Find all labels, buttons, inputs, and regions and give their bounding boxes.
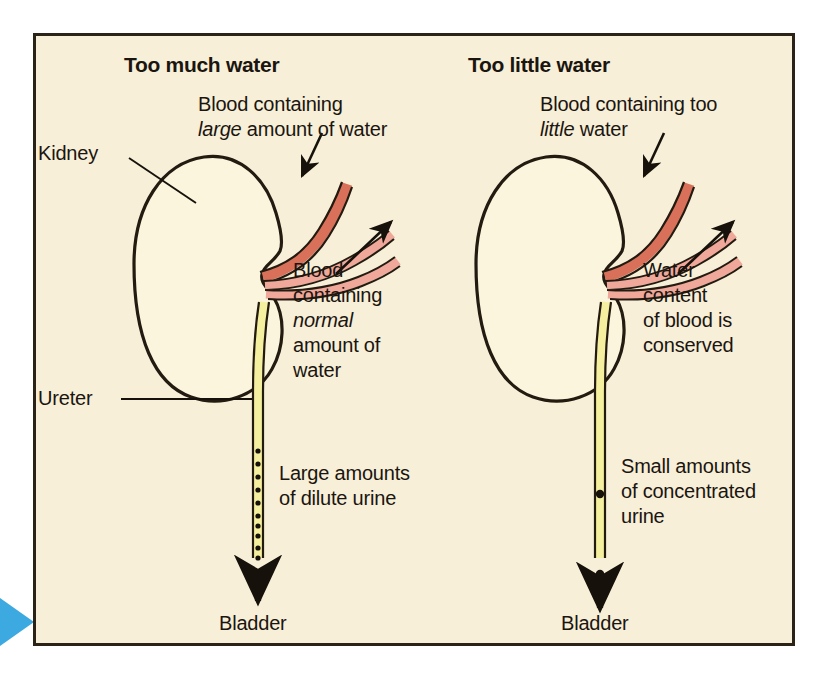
- figure-panel: Too much water Blood containing large am…: [33, 33, 795, 646]
- label-blood-normal-line5: water: [293, 358, 341, 383]
- label-blood-normal-line3: normal: [293, 308, 353, 333]
- emphasis-normal: normal: [293, 309, 353, 331]
- label-bladder-right: Bladder: [561, 611, 629, 636]
- label-blood-normal-line2: containing: [293, 283, 382, 308]
- label-water-conserved-line1: Water: [643, 258, 695, 283]
- label-large-amount-rest: amount of water: [241, 118, 387, 140]
- label-concentrated-urine-line1: Small amounts: [621, 454, 751, 479]
- label-dilute-urine-line2: of dilute urine: [279, 486, 396, 511]
- label-ureter: Ureter: [38, 386, 92, 411]
- label-concentrated-urine-line2: of concentrated: [621, 479, 756, 504]
- label-bladder-left: Bladder: [219, 611, 287, 636]
- label-water-conserved-line2: content: [643, 283, 707, 308]
- figure-root: Too much water Blood containing large am…: [0, 0, 829, 673]
- label-concentrated-urine-line3: urine: [621, 504, 664, 529]
- heading-too-much-water: Too much water: [124, 53, 279, 77]
- label-dilute-urine-line1: Large amounts: [279, 461, 410, 486]
- label-blood-normal-line4: amount of: [293, 333, 380, 358]
- blue-page-marker-icon: [0, 598, 34, 646]
- label-water-conserved-line3: of blood is: [643, 308, 732, 333]
- label-kidney: Kidney: [38, 141, 98, 166]
- label-blood-containing-large-line1: Blood containing: [198, 92, 343, 117]
- figure-panel-inner: Too much water Blood containing large am…: [36, 36, 792, 643]
- label-little-water-rest: water: [574, 118, 627, 140]
- emphasis-large: large: [198, 118, 241, 140]
- right-panel-graphic: [476, 133, 742, 608]
- label-water-conserved-line4: conserved: [643, 333, 733, 358]
- arrow-blood-in-right: [644, 133, 664, 176]
- label-blood-containing-too-little-line1: Blood containing too: [540, 92, 717, 117]
- label-blood-normal-line1: Blood: [293, 258, 343, 283]
- emphasis-little: little: [540, 118, 574, 140]
- heading-too-little-water: Too little water: [468, 53, 610, 77]
- label-blood-containing-large-line2: large amount of water: [198, 117, 387, 142]
- label-blood-containing-too-little-line2: little water: [540, 117, 628, 142]
- left-panel-graphic: [121, 133, 400, 601]
